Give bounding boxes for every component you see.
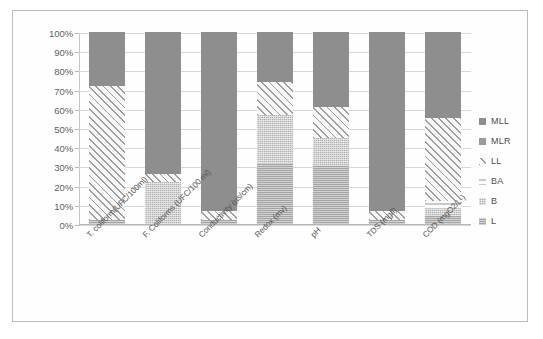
legend-item-ll[interactable]: LL <box>479 151 535 171</box>
y-axis-tick-label: 10% <box>54 200 73 211</box>
legend-item-l[interactable]: L <box>479 211 535 231</box>
y-axis-tick-mark <box>75 167 79 168</box>
stacked-bar[interactable] <box>369 33 406 224</box>
y-axis-tick-mark <box>75 148 79 149</box>
stacked-bar[interactable] <box>145 33 182 224</box>
legend-swatch-icon <box>479 158 486 165</box>
bar-group[interactable] <box>201 33 238 224</box>
legend-swatch-icon <box>479 118 486 125</box>
legend-item-mll[interactable]: MLL <box>479 111 535 131</box>
bar-group[interactable] <box>369 33 406 224</box>
legend-item-label: MLL <box>491 116 509 126</box>
y-axis-tick-label: 30% <box>54 162 73 173</box>
bar-segment-mll[interactable] <box>369 32 406 211</box>
y-axis-tick-label: 80% <box>54 66 73 77</box>
y-axis-tick-label: 50% <box>54 124 73 135</box>
y-axis-tick-label: 40% <box>54 143 73 154</box>
legend-item-label: L <box>491 216 496 226</box>
legend-item-label: LL <box>491 156 501 166</box>
bar-segment-l[interactable] <box>313 166 350 224</box>
stacked-bar[interactable] <box>201 33 238 224</box>
bar-group[interactable] <box>313 33 350 224</box>
y-axis-tick-mark <box>75 206 79 207</box>
stacked-bar[interactable] <box>425 33 462 224</box>
y-axis-tick-label: 60% <box>54 104 73 115</box>
stacked-bar[interactable] <box>313 33 350 224</box>
y-axis-tick-label: 100% <box>49 28 73 39</box>
stacked-bar[interactable] <box>89 33 126 224</box>
legend-item-mlr[interactable]: MLR <box>479 131 535 151</box>
legend-item-label: MLR <box>491 136 511 146</box>
bar-segment-ll[interactable] <box>257 82 294 115</box>
x-axis-label: pH <box>309 226 323 240</box>
y-axis-tick-mark <box>75 33 79 34</box>
y-axis-tick-label: 20% <box>54 181 73 192</box>
legend-swatch-icon <box>479 138 486 145</box>
legend-swatch-icon <box>479 178 486 185</box>
bar-segment-ll[interactable] <box>313 107 350 138</box>
bar-segment-b[interactable] <box>257 115 294 163</box>
chart-legend: MLLMLRLLBABL <box>479 111 535 231</box>
bar-segment-mll[interactable] <box>145 32 182 174</box>
y-axis-tick-mark <box>75 52 79 53</box>
y-axis-tick-mark <box>75 71 79 72</box>
bar-group[interactable] <box>89 33 126 224</box>
y-axis-tick-mark <box>75 91 79 92</box>
bar-group[interactable] <box>145 33 182 224</box>
y-axis-tick-label: 70% <box>54 85 73 96</box>
y-axis-tick-mark <box>75 129 79 130</box>
gridline <box>79 225 471 226</box>
legend-item-label: BA <box>491 176 503 186</box>
legend-swatch-icon <box>479 198 486 205</box>
y-axis-tick-label: 90% <box>54 47 73 58</box>
y-axis-tick-mark <box>75 110 79 111</box>
bar-segment-ll[interactable] <box>425 118 462 201</box>
bar-segment-mll[interactable] <box>257 32 294 82</box>
y-axis-tick-mark <box>75 187 79 188</box>
bar-group[interactable] <box>257 33 294 224</box>
y-axis-tick-mark <box>75 225 79 226</box>
bar-segment-mll[interactable] <box>425 32 462 118</box>
bar-group[interactable] <box>425 33 462 224</box>
legend-item-ba[interactable]: BA <box>479 171 535 191</box>
bar-segment-b[interactable] <box>313 138 350 167</box>
chart-frame: 100%90%80%70%60%50%40%30%20%10%0% T. col… <box>12 10 528 322</box>
bar-segment-mll[interactable] <box>201 32 238 211</box>
plot-area: 100%90%80%70%60%50%40%30%20%10%0% <box>79 33 471 225</box>
legend-item-b[interactable]: B <box>479 191 535 211</box>
legend-item-label: B <box>491 196 497 206</box>
bar-segment-mll[interactable] <box>89 32 126 86</box>
bar-segment-ll[interactable] <box>145 174 182 182</box>
y-axis-tick-label: 0% <box>59 220 73 231</box>
legend-swatch-icon <box>479 218 486 225</box>
stacked-bar[interactable] <box>257 33 294 224</box>
bar-segment-mll[interactable] <box>313 32 350 107</box>
